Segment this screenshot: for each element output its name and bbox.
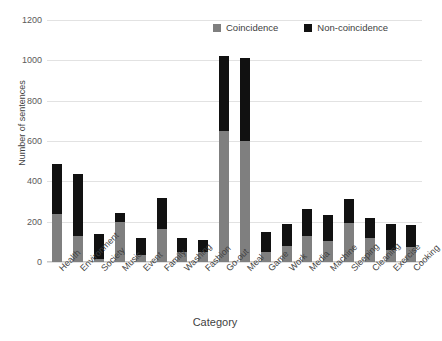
bar-column[interactable]: [89, 20, 109, 262]
x-tick: Exercise: [381, 264, 401, 322]
y-tick-label: 1000: [8, 55, 42, 65]
x-axis-ticks: HealthEnvironmentSocietyMusicEventFamily…: [47, 264, 422, 322]
bar-column[interactable]: [193, 20, 213, 262]
bar-column[interactable]: [110, 20, 130, 262]
x-tick: Fashion: [193, 264, 213, 322]
bar-column[interactable]: [152, 20, 172, 262]
bar-segment-coincidence[interactable]: [52, 214, 62, 262]
bar-segment-non-coincidence[interactable]: [115, 213, 125, 222]
x-tick: Environment: [68, 264, 88, 322]
bar-column[interactable]: [256, 20, 276, 262]
y-tick-label: 200: [8, 217, 42, 227]
bar-segment-non-coincidence[interactable]: [323, 215, 333, 241]
y-tick-label: 800: [8, 96, 42, 106]
x-tick: Cleaning: [360, 264, 380, 322]
bar-column[interactable]: [172, 20, 192, 262]
x-tick: Washing: [172, 264, 192, 322]
x-axis-title: Category: [0, 316, 430, 328]
y-tick-label: 1200: [8, 15, 42, 25]
x-tick: Machine: [318, 264, 338, 322]
bar-segment-non-coincidence[interactable]: [365, 218, 375, 238]
x-tick: Family: [152, 264, 172, 322]
bar-column[interactable]: [339, 20, 359, 262]
stacked-bar[interactable]: [240, 58, 250, 262]
x-tick: Media: [297, 264, 317, 322]
bar-column[interactable]: [131, 20, 151, 262]
y-tick-label: 600: [8, 136, 42, 146]
bar-column[interactable]: [214, 20, 234, 262]
bar-column[interactable]: [68, 20, 88, 262]
x-tick: Society: [89, 264, 109, 322]
y-axis-ticks: 120010008006004002000: [8, 0, 42, 341]
x-tick: Work: [277, 264, 297, 322]
bar-segment-non-coincidence[interactable]: [157, 198, 167, 229]
y-tick-label: 0: [8, 257, 42, 267]
bar-column[interactable]: [47, 20, 67, 262]
bar-column[interactable]: [277, 20, 297, 262]
bar-segment-non-coincidence[interactable]: [73, 174, 83, 236]
plot-area: [47, 20, 422, 262]
bar-segment-non-coincidence[interactable]: [240, 58, 250, 141]
x-tick: Health: [47, 264, 67, 322]
bar-segment-non-coincidence[interactable]: [282, 224, 292, 246]
bar-column[interactable]: [401, 20, 421, 262]
y-tick-label: 400: [8, 176, 42, 186]
bar-segment-non-coincidence[interactable]: [219, 56, 229, 131]
stacked-bar[interactable]: [219, 56, 229, 262]
bar-column[interactable]: [318, 20, 338, 262]
x-tick: Event: [131, 264, 151, 322]
x-tick: Meal: [235, 264, 255, 322]
x-tick: Cooking: [401, 264, 421, 322]
bar-column[interactable]: [360, 20, 380, 262]
bar-column[interactable]: [235, 20, 255, 262]
bar-segment-non-coincidence[interactable]: [261, 232, 271, 252]
bar-series-group: [47, 20, 422, 262]
bar-segment-non-coincidence[interactable]: [52, 164, 62, 214]
bar-column[interactable]: [381, 20, 401, 262]
x-tick: Music: [110, 264, 130, 322]
x-tick: Sleeping: [339, 264, 359, 322]
bar-segment-non-coincidence[interactable]: [302, 209, 312, 236]
bar-column[interactable]: [297, 20, 317, 262]
stacked-bar[interactable]: [52, 164, 62, 262]
x-tick: Go-out: [214, 264, 234, 322]
bar-segment-coincidence[interactable]: [219, 131, 229, 262]
bar-segment-coincidence[interactable]: [240, 141, 250, 262]
bar-segment-non-coincidence[interactable]: [344, 199, 354, 223]
x-tick: Game: [256, 264, 276, 322]
